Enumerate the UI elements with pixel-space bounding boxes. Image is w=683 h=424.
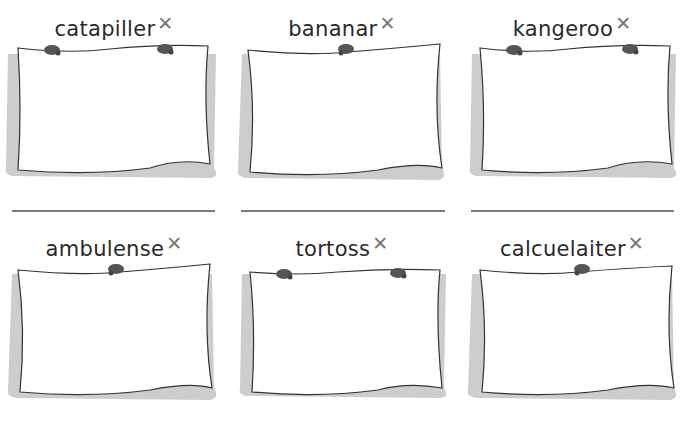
cross-mark-icon: ✕ (157, 12, 173, 34)
pinned-paper-box[interactable] (458, 260, 683, 400)
pinned-paper-box[interactable] (228, 40, 456, 180)
word-card-kangeroo: kangeroo✕ (458, 14, 683, 184)
word-card-ambulense: ambulense✕ (0, 234, 228, 404)
writing-line (241, 210, 445, 212)
word-card-catapiller: catapiller✕ (0, 14, 228, 184)
writing-line (471, 210, 674, 212)
word-card-tortoss: tortoss✕ (228, 234, 456, 404)
writing-line (12, 210, 215, 212)
cross-mark-icon: ✕ (628, 232, 644, 254)
pinned-paper-box[interactable] (0, 40, 228, 180)
pinned-paper-box[interactable] (458, 40, 683, 180)
pinned-paper-box[interactable] (0, 260, 228, 400)
cross-mark-icon: ✕ (372, 232, 388, 254)
cross-mark-icon: ✕ (615, 12, 631, 34)
cross-mark-icon: ✕ (166, 232, 182, 254)
word-card-bananar: bananar✕ (228, 14, 456, 184)
pinned-paper-box[interactable] (228, 260, 456, 400)
word-card-calcuelaiter: calcuelaiter✕ (458, 234, 683, 404)
cross-mark-icon: ✕ (380, 12, 396, 34)
